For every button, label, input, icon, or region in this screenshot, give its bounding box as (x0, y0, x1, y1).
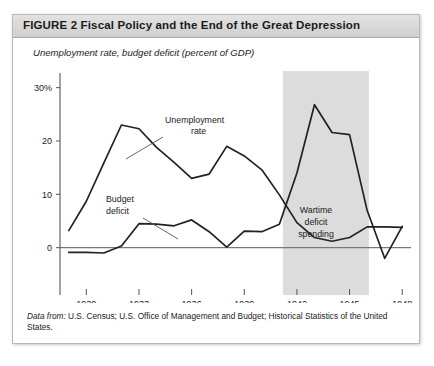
x-tick-label: 1942 (287, 299, 307, 303)
annotation-budget-deficit: Budget deficit (106, 194, 134, 216)
leader-line-budget-deficit (143, 218, 178, 239)
source-text: U.S. Census; U.S. Office of Management a… (27, 311, 387, 332)
figure-card: FIGURE 2 Fiscal Policy and the End of th… (12, 14, 420, 344)
annotation-budget-deficit-line-1: Budget (106, 194, 134, 204)
x-tick-label: 1939 (234, 299, 254, 303)
annotation-unemployment-line-1: Unemployment (165, 115, 225, 125)
chart-subtitle: Unemployment rate, budget deficit (perce… (33, 47, 254, 58)
annotation-wartime-line-2: deficit (305, 217, 329, 227)
x-tick-label: 1948 (392, 299, 412, 303)
y-tick-label: 0 (47, 243, 52, 253)
y-tick-label: 10 (42, 190, 52, 200)
chart-plot-area: 0102030% 1930193319361939194219451948 Un… (13, 63, 421, 303)
y-tick-label: 30% (34, 83, 52, 93)
x-tick-label: 1945 (340, 299, 360, 303)
y-axis-ticks: 0102030% (34, 83, 60, 253)
annotation-unemployment-rate: Unemployment rate (165, 115, 225, 136)
source-prefix: Data from: (27, 311, 66, 321)
annotation-wartime-line-3: spending (298, 229, 334, 239)
figure-title: FIGURE 2 Fiscal Policy and the End of th… (23, 19, 360, 31)
annotation-wartime-line-1: Wartime (300, 205, 333, 215)
figure-title-bar: FIGURE 2 Fiscal Policy and the End of th… (13, 15, 419, 38)
x-tick-label: 1930 (76, 299, 96, 303)
x-tick-label: 1936 (182, 299, 202, 303)
wartime-shaded-region (283, 71, 369, 295)
y-tick-label: 20 (42, 136, 52, 146)
chart-svg: 0102030% 1930193319361939194219451948 Un… (13, 63, 421, 303)
x-tick-label: 1933 (129, 299, 149, 303)
figure-source-note: Data from: U.S. Census; U.S. Office of M… (27, 311, 413, 333)
annotation-unemployment-line-2: rate (191, 126, 206, 136)
annotation-budget-deficit-line-2: deficit (106, 206, 130, 216)
